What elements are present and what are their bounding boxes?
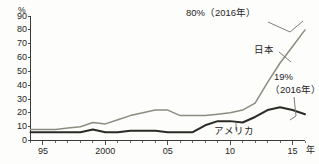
annotation-japan-peak: 80%（2016年） <box>186 8 256 19</box>
x-tick-label: 2000 <box>91 147 119 156</box>
y-tick-label: 30 <box>8 95 27 104</box>
y-tick-label: 70 <box>8 39 27 48</box>
y-tick-label: 10 <box>8 122 27 131</box>
x-tick-label: 15 <box>279 147 307 156</box>
x-tick-label: 95 <box>29 147 57 156</box>
annotation-usa-value-line2: （2016年） <box>270 85 319 96</box>
x-axis-unit-label: 年 <box>306 146 315 155</box>
y-tick-label: 80 <box>8 25 27 34</box>
leader-line-japan-series <box>279 52 291 62</box>
line-chart: % 年 0102030405060708090 952000051015 80%… <box>0 0 319 164</box>
y-tick-label: 20 <box>8 108 27 117</box>
y-tick-label: 0 <box>8 136 27 145</box>
x-tick-label: 05 <box>154 147 182 156</box>
series-line-usa <box>31 107 306 132</box>
annotation-usa-value-line1: 19% <box>274 72 293 83</box>
y-tick-label: 90 <box>8 12 27 21</box>
x-tick-label: 10 <box>216 147 244 156</box>
leader-line-usa-value <box>290 97 296 120</box>
chart-plot-area <box>0 0 319 164</box>
axes <box>31 16 306 141</box>
y-tick-label: 40 <box>8 81 27 90</box>
x-axis-ticks <box>31 141 306 145</box>
series-label-usa: アメリカ <box>214 126 254 136</box>
leader-line-japan-peak <box>268 21 303 32</box>
y-tick-label: 60 <box>8 53 27 62</box>
series-label-japan: 日本 <box>254 45 274 55</box>
y-tick-label: 50 <box>8 67 27 76</box>
